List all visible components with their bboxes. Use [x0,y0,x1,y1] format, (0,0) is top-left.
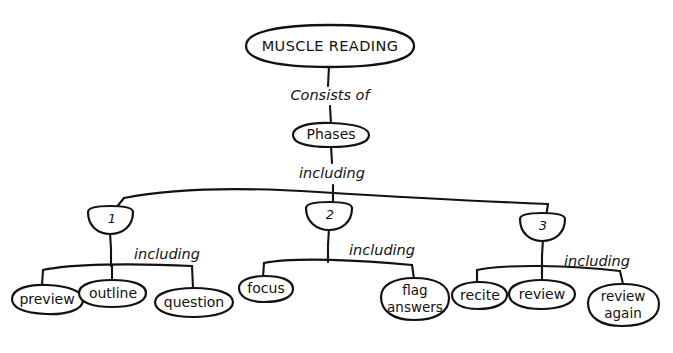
link-label-consists-of: Consists of [290,87,371,103]
link-label-including-2: including [349,242,415,258]
node-flag-answers-label-line2: answers [387,299,443,315]
node-flag-answers[interactable]: flag answers [381,278,449,320]
node-question-label: question [164,294,224,310]
edge-branch3-to-review-again [620,271,623,284]
edge-branch1-bar [43,264,192,270]
node-recite-label: recite [460,287,500,303]
edge-root-to-consists-of [328,66,329,86]
link-label-including-phases: including [299,165,365,181]
node-review-label: review [519,286,565,302]
node-flag-answers-label-line1: flag [402,282,427,298]
edge-phases-to-including [331,146,332,163]
link-label-including-1: including [134,246,200,262]
edge-branch1-to-question [192,266,193,288]
node-phase-3-label: 3 [539,218,547,233]
node-muscle-reading-label: MUSCLE READING [262,38,399,54]
node-question[interactable]: question [155,288,233,317]
node-review-again[interactable]: review again [588,284,659,326]
concept-map-svg: MUSCLE READING Consists of Phases includ… [0,0,673,353]
node-phase-3[interactable]: 3 [520,213,565,241]
node-review[interactable]: review [509,280,575,309]
edge-branch2-to-flag-answers [412,265,414,279]
node-phase-1[interactable]: 1 [88,206,133,234]
node-phase-1-label: 1 [108,211,116,226]
edge-branch1-to-preview [42,270,43,285]
node-phases[interactable]: Phases [293,123,369,147]
node-phase-2[interactable]: 2 [306,202,352,230]
node-muscle-reading[interactable]: MUSCLE READING [246,25,414,67]
node-preview-label: preview [19,291,74,307]
edge-branch2-to-focus [263,263,264,277]
node-phases-label: Phases [306,126,355,142]
node-focus-label: focus [247,280,284,296]
edge-branch2-bar [264,260,412,265]
node-focus[interactable]: focus [239,276,293,302]
node-review-again-label-line2: again [604,305,641,321]
diagram-canvas: MUSCLE READING Consists of Phases includ… [0,0,673,353]
node-phase-2-label: 2 [326,207,334,222]
edge-consists-of-to-phases [330,106,331,124]
node-recite[interactable]: recite [452,282,507,309]
node-review-again-label-line1: review [601,288,646,304]
link-label-including-3: including [564,253,630,269]
node-outline[interactable]: outline [79,280,146,307]
node-preview[interactable]: preview [12,285,83,314]
node-outline-label: outline [89,285,137,301]
